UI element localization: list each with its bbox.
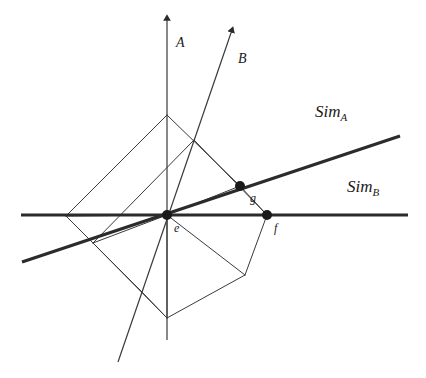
axes-group: [118, 18, 232, 362]
geometric-diagram-canvas: A B SimA SimB e g f: [0, 0, 426, 378]
sim-a-label-subscript: A: [341, 111, 348, 123]
sim-b-label-subscript: B: [373, 186, 380, 198]
lattice-edge-7: [93, 215, 167, 243]
similarity-lines-group: [21, 136, 408, 262]
lattice-edge-13: [245, 215, 267, 275]
lattice-edge-11: [93, 243, 167, 318]
sim-a-label-text: Sim: [315, 102, 341, 121]
point-label-e: e: [174, 222, 179, 234]
point-e-marker: [162, 210, 172, 220]
point-label-g: g: [250, 192, 256, 204]
sim-b-label: SimB: [347, 178, 379, 198]
axis-label-b: B: [238, 52, 247, 66]
sim-b-label-text: Sim: [347, 177, 373, 196]
point-label-f: f: [274, 222, 277, 234]
point-f-marker: [262, 210, 272, 220]
lattice-edge-14: [167, 275, 245, 318]
lattice-edge-0: [66, 115, 167, 216]
sim-a-label: SimA: [315, 103, 347, 123]
axis-label-a: A: [176, 36, 185, 50]
similarity-line-a: [22, 136, 400, 262]
point-g-marker: [235, 181, 245, 191]
